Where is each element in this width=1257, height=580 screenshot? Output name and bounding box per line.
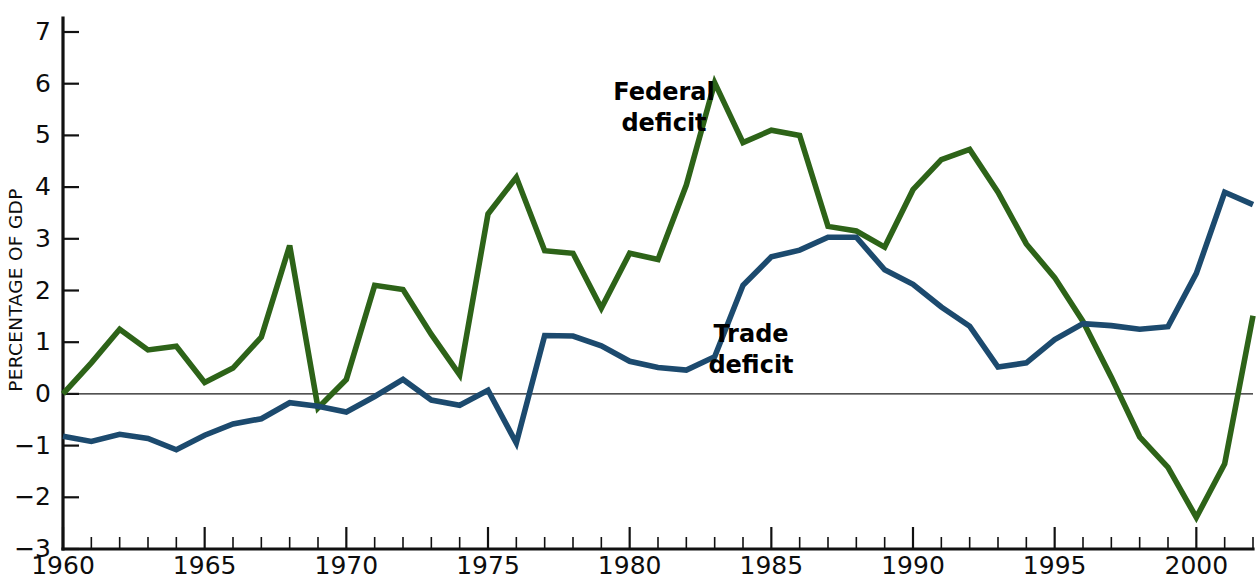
y-axis-title: PERCENTAGE OF GDP — [5, 188, 26, 391]
y-tick-label: −2 — [14, 482, 51, 511]
federal-deficit-label-line2: deficit — [621, 109, 706, 137]
x-tick-label: 1975 — [456, 551, 520, 580]
y-tick-label: 7 — [35, 17, 51, 46]
x-tick-label: 1965 — [173, 551, 237, 580]
trade-deficit-label-line2: deficit — [708, 351, 793, 379]
y-tick-label: 0 — [35, 379, 51, 408]
x-tick-label: 1995 — [1023, 551, 1087, 580]
y-tick-label: 1 — [35, 327, 51, 356]
trade-deficit-label-line1: Trade — [713, 320, 788, 348]
x-tick-label: 1960 — [31, 551, 95, 580]
y-tick-label: 3 — [35, 224, 51, 253]
y-tick-label: 4 — [35, 172, 51, 201]
y-tick-label: 2 — [35, 276, 51, 305]
x-tick-label: 1985 — [740, 551, 804, 580]
y-tick-label: 6 — [35, 69, 51, 98]
x-tick-label: 1990 — [881, 551, 945, 580]
x-tick-label: 1980 — [598, 551, 662, 580]
x-tick-label: 1970 — [315, 551, 379, 580]
chart-container: PERCENTAGE OF GDP 76543210−1−2−3 1960196… — [0, 0, 1257, 580]
federal-deficit-label-line1: Federal — [613, 78, 714, 106]
y-tick-label: −1 — [14, 431, 51, 460]
x-tick-label: 2000 — [1165, 551, 1229, 580]
y-tick-label: 5 — [35, 120, 51, 149]
deficit-line-chart: PERCENTAGE OF GDP 76543210−1−2−3 1960196… — [0, 0, 1257, 580]
